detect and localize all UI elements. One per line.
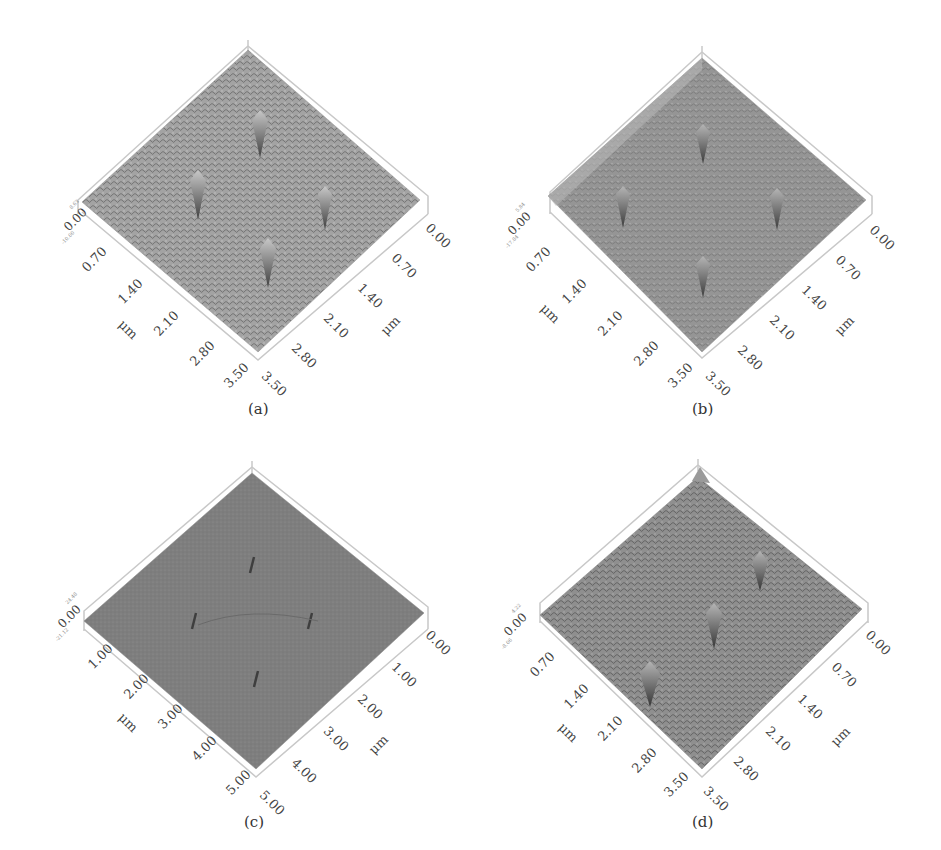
panel-caption: (a) xyxy=(248,400,269,418)
panel-caption: (d) xyxy=(692,813,713,831)
panel-c: 24.48 0.00 -21.12 1.00 2.00 3.00 4.00 5.… xyxy=(0,425,470,850)
panel-d: 4.22 0.00 -8.06 0.70 1.40 2.10 2.80 3.50… xyxy=(440,425,910,850)
afm-surface-a xyxy=(0,0,470,425)
panel-b: 5.84 0.00 -17.84 0.70 1.40 2.10 2.80 3.5… xyxy=(440,0,910,425)
panel-caption: (b) xyxy=(692,400,713,418)
panel-caption: (c) xyxy=(244,813,264,831)
afm-surface-b xyxy=(440,0,910,425)
panel-a: 8.63 0.00 -10.00 0.70 1.40 2.10 2.80 3.5… xyxy=(0,0,470,425)
